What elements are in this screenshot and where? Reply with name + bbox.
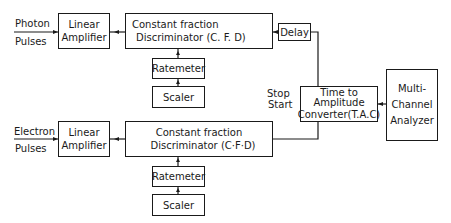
photon-label: Photon bbox=[15, 17, 50, 30]
bottom-ratemeter-box: Ratemeter bbox=[152, 166, 205, 187]
bottom-scaler-box: Scaler bbox=[152, 194, 205, 216]
tac-line3: Converter(T.A.C) bbox=[298, 108, 381, 121]
electron-pulses-label: Pulses bbox=[15, 142, 47, 155]
top-la-line2: Amplifier bbox=[61, 31, 106, 44]
mca-box: Multi- Channel Analyzer bbox=[386, 69, 438, 141]
bottom-cfd-line2: Discriminator (C·F·D) bbox=[143, 139, 256, 152]
bottom-cfd-box: Constant fraction Discriminator (C·F·D) bbox=[125, 121, 273, 157]
delay-label: Delay bbox=[280, 26, 309, 39]
top-cfd-line1: Constant fraction bbox=[132, 18, 219, 31]
mca-line1: Multi- bbox=[398, 81, 426, 97]
top-scaler-label: Scaler bbox=[163, 91, 194, 104]
bottom-la-line1: Linear bbox=[68, 126, 99, 139]
photon-pulses-label: Pulses bbox=[15, 35, 47, 48]
bottom-cfd-line1: Constant fraction bbox=[156, 126, 243, 139]
bottom-linear-amplifier-box: Linear Amplifier bbox=[58, 121, 110, 157]
bottom-ratemeter-label: Ratemeter bbox=[152, 170, 205, 183]
mca-line3: Analyzer bbox=[390, 113, 434, 129]
top-cfd-line2: Discriminator (C. F. D) bbox=[132, 31, 246, 44]
top-ratemeter-box: Ratemeter bbox=[152, 58, 205, 79]
tac-line2: Amplitude bbox=[313, 98, 364, 108]
top-cfd-box: Constant fraction Discriminator (C. F. D… bbox=[125, 13, 273, 49]
mca-line2: Channel bbox=[391, 97, 432, 113]
tac-box: Time to Amplitude Converter(T.A.C) bbox=[300, 86, 378, 122]
top-linear-amplifier-box: Linear Amplifier bbox=[58, 13, 110, 49]
bottom-la-line2: Amplifier bbox=[61, 139, 106, 152]
bottom-scaler-label: Scaler bbox=[163, 199, 194, 212]
top-scaler-box: Scaler bbox=[152, 86, 205, 108]
tac-line1: Time to bbox=[320, 88, 358, 98]
start-label: Start bbox=[268, 98, 292, 111]
delay-box: Delay bbox=[278, 23, 311, 41]
top-ratemeter-label: Ratemeter bbox=[152, 62, 205, 75]
top-la-line1: Linear bbox=[68, 18, 99, 31]
electron-label: Electron bbox=[14, 125, 55, 138]
